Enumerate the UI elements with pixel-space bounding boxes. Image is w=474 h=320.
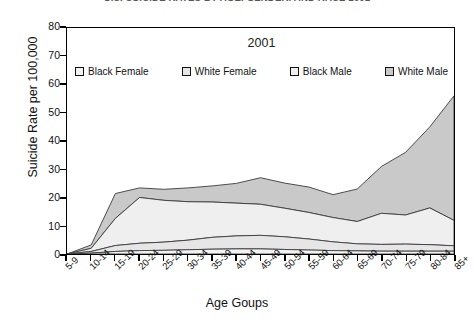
stacked-area-svg xyxy=(67,28,454,254)
legend-item: Black Female xyxy=(75,66,149,77)
y-tick-mark xyxy=(60,112,66,113)
legend-label: Black Female xyxy=(88,66,149,77)
y-tick-mark xyxy=(60,83,66,84)
legend-swatch-icon xyxy=(290,67,299,76)
plot-area: 2001 Black FemaleWhite FemaleBlack MaleW… xyxy=(66,27,455,255)
y-tick-mark xyxy=(60,169,66,170)
y-tick-label: 30 xyxy=(20,163,60,175)
legend-label: White Male xyxy=(398,66,448,77)
chart-legend: Black FemaleWhite FemaleBlack MaleWhite … xyxy=(75,66,448,77)
x-axis-title: Age Goups xyxy=(0,296,474,310)
y-tick-mark xyxy=(60,55,66,56)
y-tick-label: 50 xyxy=(20,106,60,118)
legend-item: White Male xyxy=(385,66,448,77)
y-tick-mark xyxy=(60,140,66,141)
figure-supertitle: U.S. SUICIDE RATES BY AGE, GENDER, AND R… xyxy=(0,0,474,1)
y-tick-label: 20 xyxy=(20,191,60,203)
legend-swatch-icon xyxy=(75,67,84,76)
legend-item: White Female xyxy=(182,66,257,77)
legend-swatch-icon xyxy=(182,67,191,76)
y-tick-mark xyxy=(60,197,66,198)
y-tick-label: 80 xyxy=(20,20,60,32)
y-tick-label: 60 xyxy=(20,77,60,89)
legend-item: Black Male xyxy=(290,66,352,77)
chart-figure: U.S. SUICIDE RATES BY AGE, GENDER, AND R… xyxy=(0,0,474,320)
legend-swatch-icon xyxy=(385,67,394,76)
y-tick-label: 10 xyxy=(20,220,60,232)
y-tick-label: 0 xyxy=(20,248,60,260)
y-tick-label: 70 xyxy=(20,49,60,61)
y-tick-mark xyxy=(60,26,66,27)
legend-label: Black Male xyxy=(303,66,352,77)
chart-title: 2001 xyxy=(67,36,456,50)
y-tick-label: 40 xyxy=(20,134,60,146)
legend-label: White Female xyxy=(195,66,257,77)
y-tick-mark xyxy=(60,226,66,227)
